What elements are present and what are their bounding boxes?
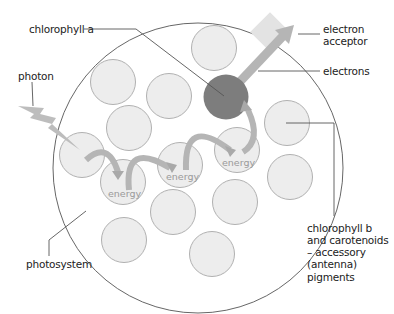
electron-acceptor-label-line1: electron xyxy=(323,23,364,35)
energy-label: energy xyxy=(166,171,199,182)
accessory-pigments-label-line4: (antenna) xyxy=(307,258,357,270)
reaction-center-chlorophyll-a xyxy=(204,75,249,120)
pigment-circle xyxy=(102,218,147,263)
pigment-circle xyxy=(213,180,258,225)
accessory-pigments-label-line1: chlorophyll b xyxy=(307,222,372,234)
pigment-circle xyxy=(91,60,136,105)
pigment-circle xyxy=(190,232,235,277)
pigment-circle xyxy=(192,26,237,71)
electron-acceptor-label-line2: acceptor xyxy=(323,35,367,47)
pigment-circle xyxy=(151,190,196,235)
energy-label: energy xyxy=(222,157,255,168)
pigment-circle xyxy=(268,155,313,200)
electrons-label: electrons xyxy=(323,65,370,77)
accessory-pigments-label-line2: and carotenoids xyxy=(307,234,389,246)
chlorophyll-a-label: chlorophyll a xyxy=(29,23,94,35)
accessory-pigments-label-line3: – accessory xyxy=(307,246,366,258)
pigment-circle xyxy=(107,106,152,151)
accessory-pigments-label-line5: pigments xyxy=(307,271,355,283)
photosystem-label: photosystem xyxy=(26,258,92,270)
energy-label: energy xyxy=(108,188,141,199)
photon-label: photon xyxy=(18,70,54,82)
pigment-circle xyxy=(147,74,192,119)
photon-leader xyxy=(32,82,33,106)
